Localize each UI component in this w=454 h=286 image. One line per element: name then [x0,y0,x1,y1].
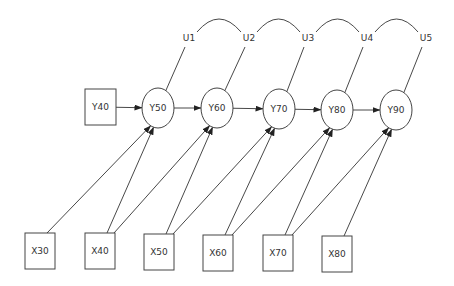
path-diagram: Y40Y50Y60Y70Y80Y90X30X40X50X60X70X80 U1U… [0,0,454,286]
error-label-u5: U5 [420,33,432,43]
node-y50: Y50 [142,88,174,128]
node-x30: X30 [25,233,55,269]
node-label: Y50 [149,103,167,113]
error-line-U2 [225,47,245,91]
path-X70-to-Y90 [292,128,389,235]
node-x80: X80 [322,236,352,272]
node-y80: Y80 [321,90,353,130]
path-X60-to-Y80 [232,128,330,235]
error-label-u4: U4 [361,33,374,43]
error-label-u1: U1 [183,33,195,43]
path-X50-to-Y60 [166,127,213,234]
node-label: X60 [209,248,227,258]
node-label: X40 [91,246,109,256]
covariance-arcs [197,19,418,32]
node-y40: Y40 [85,89,116,125]
node-label: X50 [150,247,168,257]
error-label-u2: U2 [243,33,255,43]
covariance-arc-U1-U2 [197,19,241,32]
path-edges [47,47,422,236]
node-x70: X70 [263,235,293,271]
error-line-U4 [345,47,363,93]
path-X30-to-Y50 [47,126,151,233]
node-y60: Y60 [201,88,233,128]
node-label: Y90 [387,105,405,115]
covariance-arc-U4-U5 [375,19,418,32]
node-label: X30 [31,246,49,256]
covariance-arc-U3-U4 [316,19,359,32]
error-line-U3 [287,47,304,92]
node-y90: Y90 [380,90,412,130]
path-X40-to-Y50 [107,127,154,233]
error-line-U5 [404,47,422,93]
node-x40: X40 [85,233,115,269]
node-y70: Y70 [263,89,295,129]
node-label: Y60 [208,103,226,113]
error-line-U1 [166,47,185,91]
path-X40-to-Y60 [114,126,210,233]
path-X80-to-Y90 [344,129,392,236]
node-label: Y70 [270,104,288,114]
covariance-arc-U2-U3 [257,19,300,32]
node-x60: X60 [203,235,233,271]
node-label: X80 [328,249,346,259]
path-X60-to-Y70 [225,128,275,235]
node-label: Y80 [328,105,346,115]
node-label: Y40 [91,102,109,112]
node-x50: X50 [144,234,174,270]
node-label: X70 [269,248,287,258]
nodes: Y40Y50Y60Y70Y80Y90X30X40X50X60X70X80 [25,88,412,272]
path-X50-to-Y70 [173,127,272,234]
error-labels: U1U2U3U4U5 [183,33,432,43]
error-label-u3: U3 [302,33,314,43]
path-X70-to-Y80 [285,129,333,235]
